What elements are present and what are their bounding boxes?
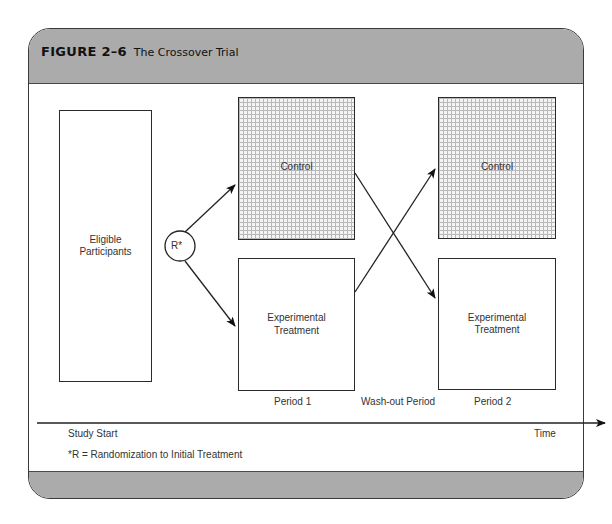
arrow-treatment-to-control — [355, 169, 435, 292]
period1-label: Period 1 — [274, 396, 311, 407]
arrow-to-period1-control — [185, 185, 235, 232]
period2-label: Period 2 — [474, 396, 511, 407]
study-start-label: Study Start — [68, 428, 117, 439]
time-label: Time — [534, 428, 556, 439]
arrow-to-period1-treatment — [185, 261, 235, 326]
randomization-arrows — [185, 169, 435, 326]
arrow-control-to-treatment — [355, 173, 435, 298]
footnote: *R = Randomization to Initial Treatment — [68, 449, 242, 460]
washout-label: Wash-out Period — [361, 396, 435, 407]
diagram-connectors — [0, 0, 612, 524]
randomization-label: R* — [171, 240, 182, 251]
